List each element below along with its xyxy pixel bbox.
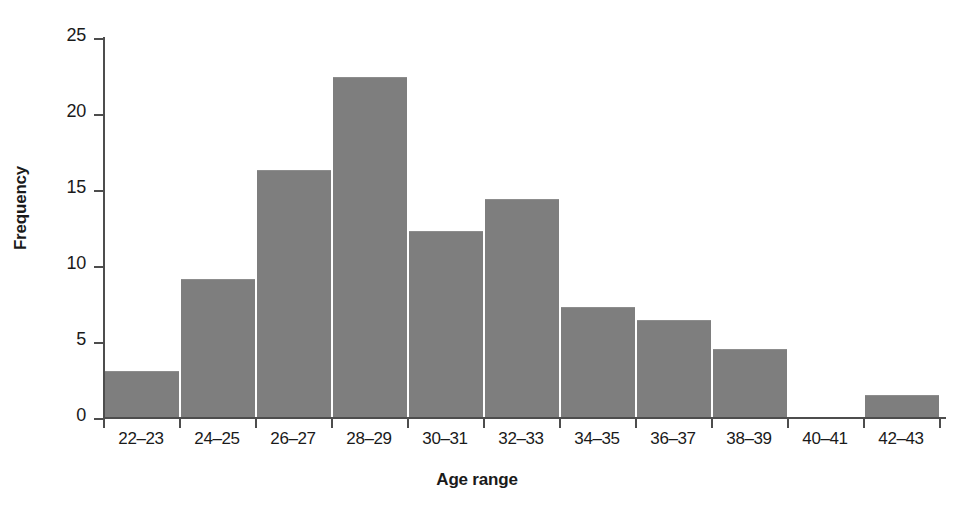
x-tick-label-42-43: 42–43	[851, 429, 951, 449]
x-tick-mark	[483, 417, 485, 428]
bar-30-31	[409, 231, 483, 419]
bar-36-37	[637, 320, 711, 419]
y-tick-label: 15	[46, 177, 86, 198]
y-tick-label: 20	[46, 101, 86, 122]
x-tick-mark	[331, 417, 333, 428]
bar-42-43	[865, 395, 939, 419]
x-tick-mark	[179, 417, 181, 428]
y-axis-line	[103, 37, 105, 419]
y-axis-title: Frequency	[11, 148, 31, 268]
x-tick-mark	[407, 417, 409, 428]
y-tick-mark	[94, 266, 104, 268]
bar-26-27	[257, 170, 331, 419]
y-tick-label: 25	[46, 25, 86, 46]
y-tick-mark	[94, 342, 104, 344]
bar-38-39	[713, 349, 787, 419]
y-tick-label: 0	[46, 405, 86, 426]
y-tick-mark	[94, 190, 104, 192]
y-tick-mark	[94, 114, 104, 116]
x-tick-mark	[787, 417, 789, 428]
y-tick-label: 5	[46, 329, 86, 350]
x-tick-mark	[635, 417, 637, 428]
x-tick-mark	[103, 417, 105, 428]
x-tick-mark	[559, 417, 561, 428]
x-axis-line	[103, 417, 946, 419]
bar-34-35	[561, 307, 635, 419]
x-tick-mark	[863, 417, 865, 428]
x-tick-mark	[255, 417, 257, 428]
bar-22-23	[105, 371, 179, 419]
bar-32-33	[485, 199, 559, 419]
x-tick-mark	[939, 417, 941, 428]
bar-28-29	[333, 77, 407, 419]
y-tick-mark	[94, 38, 104, 40]
x-tick-mark	[711, 417, 713, 428]
histogram-chart: Frequency 25 20 15 10 5 0	[0, 0, 954, 514]
x-axis-title: Age range	[0, 470, 954, 490]
bar-24-25	[181, 279, 255, 419]
y-tick-label: 10	[46, 253, 86, 274]
